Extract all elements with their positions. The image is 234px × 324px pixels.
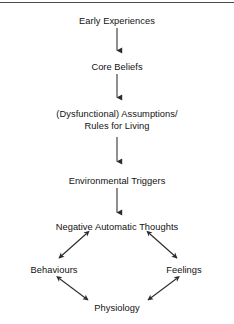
node-assumptions-line1: (Dysfunctional) Assumptions/ [0,109,234,120]
node-assumptions-line2: Rules for Living [0,121,234,132]
node-feelings: Feelings [138,265,230,276]
cbt-model-diagram: Early Experiences Core Beliefs (Dysfunct… [0,0,234,324]
node-negative-automatic-thoughts: Negative Automatic Thoughts [0,222,234,233]
node-physiology: Physiology [0,303,234,314]
node-behaviours: Behaviours [8,265,100,276]
arrow-thoughts-behaviours [59,234,86,258]
node-environmental-triggers: Environmental Triggers [0,176,234,187]
arrow-thoughts-feelings [150,234,177,258]
node-early-experiences: Early Experiences [0,16,234,27]
arrow-feelings-physiology [148,279,176,300]
node-core-beliefs: Core Beliefs [0,62,234,73]
arrow-behaviours-physiology [60,279,88,300]
